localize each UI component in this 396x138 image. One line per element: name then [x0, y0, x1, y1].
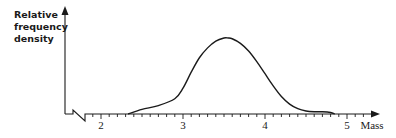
chart-plot: 2 3 4 5 Mass	[0, 0, 396, 138]
x-tick-label-3: 3	[180, 119, 186, 131]
x-tick-label-2: 2	[98, 119, 104, 131]
x-tick-label-4: 4	[262, 119, 268, 131]
x-axis-label: Mass	[360, 119, 383, 131]
axis-break	[65, 110, 92, 121]
x-axis-ticks	[93, 114, 364, 119]
distribution-curve	[128, 38, 335, 114]
x-axis-arrow-icon	[371, 111, 380, 118]
x-tick-label-5: 5	[344, 119, 350, 131]
y-axis-arrow-icon	[62, 6, 69, 15]
